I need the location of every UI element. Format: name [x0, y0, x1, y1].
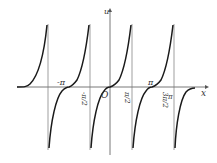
tick-label-neg-half-pi: -π/2 — [80, 92, 88, 106]
svg-text:-π/2: -π/2 — [80, 92, 88, 106]
chart: u x O -π π -π/2 π/2 3π/2 π — [0, 0, 217, 163]
tick-label-neg-pi: -π — [57, 78, 66, 87]
x-axis-label: x — [201, 88, 206, 98]
y-axis-label: u — [104, 7, 109, 16]
tick-label-pi-right: π — [167, 93, 173, 101]
origin-label: O — [101, 90, 109, 100]
tick-label-half-pi: π/2 — [123, 91, 131, 104]
svg-text:π/2: π/2 — [123, 91, 131, 104]
curve — [17, 25, 195, 148]
tick-label-pi: π — [147, 78, 154, 87]
